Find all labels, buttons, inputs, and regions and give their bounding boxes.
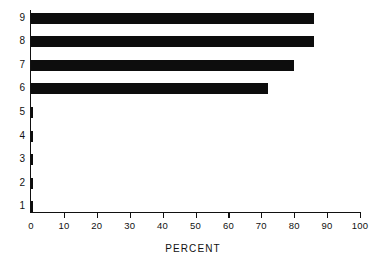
bar-9 xyxy=(31,13,314,24)
x-tick-10 xyxy=(64,213,65,218)
bar-2 xyxy=(31,178,33,189)
y-tick-label-3: 3 xyxy=(8,153,25,164)
x-tick-20 xyxy=(97,213,98,218)
x-tick-label-50: 50 xyxy=(181,220,211,231)
bar-8 xyxy=(31,36,314,47)
x-tick-label-80: 80 xyxy=(279,220,309,231)
x-tick-label-10: 10 xyxy=(49,220,79,231)
x-tick-label-100: 100 xyxy=(345,220,375,231)
x-tick-label-0: 0 xyxy=(16,220,46,231)
x-tick-label-40: 40 xyxy=(148,220,178,231)
bar-4 xyxy=(31,131,33,142)
x-tick-90 xyxy=(327,213,328,218)
x-tick-60 xyxy=(228,213,229,218)
x-tick-40 xyxy=(163,213,164,218)
bar-chart: 987654321 0102030405060708090100 PERCENT xyxy=(0,0,386,268)
y-tick-label-6: 6 xyxy=(8,82,25,93)
y-tick-label-9: 9 xyxy=(8,12,25,23)
y-tick-label-5: 5 xyxy=(8,106,25,117)
x-tick-label-30: 30 xyxy=(115,220,145,231)
x-tick-label-20: 20 xyxy=(82,220,112,231)
bar-5 xyxy=(31,107,33,118)
y-tick-label-1: 1 xyxy=(8,200,25,211)
x-tick-70 xyxy=(261,213,262,218)
x-tick-100 xyxy=(360,213,361,218)
x-tick-label-70: 70 xyxy=(246,220,276,231)
y-tick-label-2: 2 xyxy=(8,177,25,188)
x-tick-30 xyxy=(130,213,131,218)
y-tick-label-8: 8 xyxy=(8,35,25,46)
bar-3 xyxy=(31,154,33,165)
x-tick-label-60: 60 xyxy=(213,220,243,231)
x-axis-title: PERCENT xyxy=(0,243,386,254)
bar-7 xyxy=(31,60,294,71)
y-tick-label-7: 7 xyxy=(8,59,25,70)
bar-6 xyxy=(31,83,268,94)
x-tick-label-90: 90 xyxy=(312,220,342,231)
bar-1 xyxy=(31,201,33,212)
y-tick-label-4: 4 xyxy=(8,130,25,141)
x-tick-50 xyxy=(196,213,197,218)
x-tick-80 xyxy=(294,213,295,218)
